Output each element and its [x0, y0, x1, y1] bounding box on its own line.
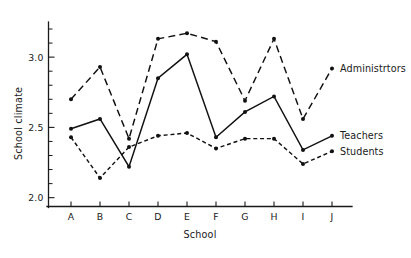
data-point-marker [301, 117, 305, 121]
y-tick-label: 2.0 [28, 192, 43, 203]
data-point-marker [156, 37, 160, 41]
data-point-marker [98, 176, 102, 180]
x-tick-label: A [68, 211, 75, 222]
data-point-marker [69, 127, 73, 131]
chart-series-labels: AdministrtorsTeachersStudents [339, 63, 406, 157]
series-label-teachers: Teachers [339, 130, 383, 141]
series-line-teachers [71, 54, 332, 166]
data-point-marker [69, 135, 73, 139]
x-tick-label: B [97, 211, 104, 222]
data-point-marker [185, 52, 189, 56]
x-tick-label: H [270, 211, 277, 222]
data-point-marker [243, 110, 247, 114]
chart-series-group [71, 33, 332, 178]
data-point-marker [330, 134, 334, 138]
data-point-marker [156, 134, 160, 138]
x-axis-tick-labels: ABCDEFGHIJ [68, 211, 334, 222]
series-line-administrtors [71, 33, 332, 138]
data-point-marker [272, 137, 276, 141]
data-point-marker [98, 65, 102, 69]
data-point-marker [127, 165, 131, 169]
data-point-marker [243, 137, 247, 141]
x-tick-label: G [241, 211, 248, 222]
y-axis-title: School climate [13, 87, 24, 160]
data-point-marker [214, 146, 218, 150]
data-point-marker [301, 162, 305, 166]
x-tick-label: C [126, 211, 133, 222]
data-point-marker [127, 137, 131, 141]
chart-markers-group [69, 31, 334, 180]
x-axis-ticks [71, 202, 332, 207]
x-tick-label: I [302, 211, 305, 222]
data-point-marker [156, 76, 160, 80]
x-tick-label: D [154, 211, 161, 222]
line-chart-canvas: 2.02.53.0 ABCDEFGHIJ AdministrtorsTeache… [0, 0, 411, 258]
chart-figure: 2.02.53.0 ABCDEFGHIJ AdministrtorsTeache… [0, 0, 411, 258]
y-axis-ticks [49, 29, 55, 198]
series-label-students: Students [340, 146, 384, 157]
x-tick-label: E [184, 211, 190, 222]
data-point-marker [185, 31, 189, 35]
data-point-marker [214, 40, 218, 44]
y-tick-label: 3.0 [28, 52, 43, 63]
data-point-marker [127, 145, 131, 149]
data-point-marker [272, 94, 276, 98]
y-axis-tick-labels: 2.02.53.0 [28, 52, 43, 204]
data-point-marker [185, 131, 189, 135]
data-point-marker [301, 148, 305, 152]
x-axis-title: School [183, 229, 216, 240]
data-point-marker [214, 135, 218, 139]
x-tick-label: J [330, 211, 334, 222]
data-point-marker [330, 149, 334, 153]
y-tick-label: 2.5 [28, 122, 43, 133]
data-point-marker [69, 97, 73, 101]
x-tick-label: F [213, 211, 219, 222]
data-point-marker [330, 66, 334, 70]
data-point-marker [243, 99, 247, 103]
data-point-marker [272, 37, 276, 41]
data-point-marker [98, 117, 102, 121]
series-line-students [71, 133, 332, 178]
series-label-administrtors: Administrtors [340, 63, 406, 74]
